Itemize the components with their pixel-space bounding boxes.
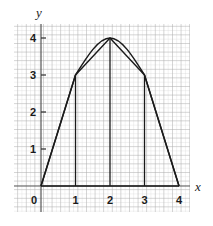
x-tick-label-2: 2 [107, 194, 113, 206]
y-tick-label-2: 2 [30, 106, 36, 118]
y-tick-label-1: 1 [30, 143, 36, 155]
x-tick-label-0: 0 [31, 194, 37, 206]
figure-container: y x 1 2 3 4 0 1 2 3 4 [0, 0, 213, 226]
parabola-trapezoid-figure: y x 1 2 3 4 0 1 2 3 4 [0, 0, 213, 226]
x-tick-label-3: 3 [141, 194, 147, 206]
x-tick-label-4: 4 [176, 194, 183, 206]
x-axis-label: x [194, 179, 201, 194]
y-tick-label-4: 4 [30, 32, 37, 44]
x-tick-label-1: 1 [72, 194, 78, 206]
y-axis-label: y [34, 5, 42, 20]
y-tick-label-3: 3 [30, 69, 36, 81]
